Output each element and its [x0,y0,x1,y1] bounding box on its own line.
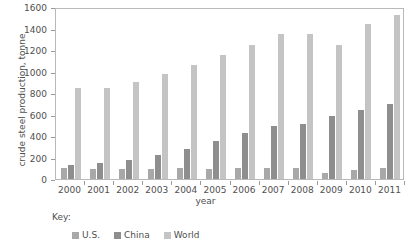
legend-swatch-icon [114,232,121,239]
x-tick-label: 2007 [262,185,285,195]
y-tick-label: 0 [41,175,47,185]
x-tick-mark [171,181,172,185]
x-tick-mark [142,181,143,185]
bar-world-2006 [249,45,255,179]
bar-china-2008 [300,124,306,179]
x-tick-mark [375,181,376,185]
bar-world-2003 [162,74,168,179]
bar-world-2010 [365,24,371,179]
bar-us-2004 [177,168,183,179]
legend-label: U.S. [82,230,100,240]
bar-group [260,9,289,179]
plot-area [55,8,404,180]
legend-swatch-icon [164,232,171,239]
bar-group [231,9,260,179]
x-tick-label: 2001 [87,185,110,195]
y-tick-label: 1600 [24,3,47,13]
y-tick-mark [51,180,55,181]
bar-us-2010 [351,170,357,179]
bar-group [376,9,405,179]
y-tick-label: 1400 [24,25,47,35]
bar-us-2001 [90,169,96,179]
x-tick-label: 2003 [145,185,168,195]
bar-us-2009 [322,173,328,179]
bar-world-2001 [104,88,110,179]
x-tick-label: 2002 [116,185,139,195]
bar-group [347,9,376,179]
chart-figure: crude steel production, tonne 0200400600… [0,0,411,247]
bar-world-2004 [191,65,197,179]
legend-item-us: U.S. [72,230,100,240]
y-tick-mark [51,94,55,95]
bar-us-2007 [264,168,270,179]
bar-china-2005 [213,141,219,179]
bar-us-2000 [61,168,67,179]
legend: U.S.ChinaWorld [72,230,200,240]
bar-world-2007 [278,34,284,179]
y-tick-label: 600 [30,111,47,121]
bar-china-2011 [387,104,393,179]
bar-china-2010 [358,110,364,179]
x-tick-label: 2000 [58,185,81,195]
y-tick-label: 400 [30,132,47,142]
legend-swatch-icon [72,232,79,239]
x-tick-mark [259,181,260,185]
x-tick-mark [84,181,85,185]
bar-group [201,9,230,179]
bar-china-2002 [126,160,132,179]
y-tick-mark [51,73,55,74]
bar-group [143,9,172,179]
bar-us-2003 [148,169,154,179]
bar-china-2003 [155,155,161,179]
x-tick-label: 2011 [378,185,401,195]
x-tick-mark [200,181,201,185]
bar-group [56,9,85,179]
bar-china-2006 [242,133,248,179]
legend-label: China [124,230,150,240]
bar-us-2005 [206,169,212,179]
y-tick-label: 1200 [24,46,47,56]
y-tick-mark [51,116,55,117]
x-tick-label: 2006 [233,185,256,195]
bar-china-2004 [184,149,190,179]
bar-world-2011 [394,15,400,179]
legend-label: World [174,230,200,240]
bar-world-2002 [133,82,139,179]
y-tick-mark [51,8,55,9]
bars-container [56,9,403,179]
y-tick-mark [51,30,55,31]
bar-china-2007 [271,126,277,179]
bar-group [172,9,201,179]
x-tick-label: 2005 [204,185,227,195]
legend-item-world: World [164,230,200,240]
y-axis-tick-labels: 02004006008001000120014001600 [18,0,51,190]
bar-us-2011 [380,168,386,179]
x-tick-mark [404,181,405,185]
y-tick-mark [51,159,55,160]
x-tick-mark [288,181,289,185]
x-tick-mark [230,181,231,185]
legend-item-china: China [114,230,150,240]
bar-world-2008 [307,34,313,179]
y-tick-label: 1000 [24,68,47,78]
x-tick-label: 2010 [349,185,372,195]
bar-china-2001 [97,163,103,179]
bar-us-2002 [119,169,125,179]
x-tick-mark [346,181,347,185]
y-tick-label: 800 [30,89,47,99]
bar-group [114,9,143,179]
x-tick-mark [113,181,114,185]
x-tick-label: 2004 [174,185,197,195]
bar-world-2005 [220,55,226,179]
bar-china-2009 [329,116,335,179]
bar-group [85,9,114,179]
bar-us-2008 [293,168,299,179]
bar-us-2006 [235,168,241,179]
y-tick-mark [51,137,55,138]
bar-china-2000 [68,165,74,179]
x-tick-mark [317,181,318,185]
legend-title: Key: [52,212,71,222]
bar-world-2009 [336,45,342,179]
y-tick-mark [51,51,55,52]
x-tick-label: 2009 [320,185,343,195]
